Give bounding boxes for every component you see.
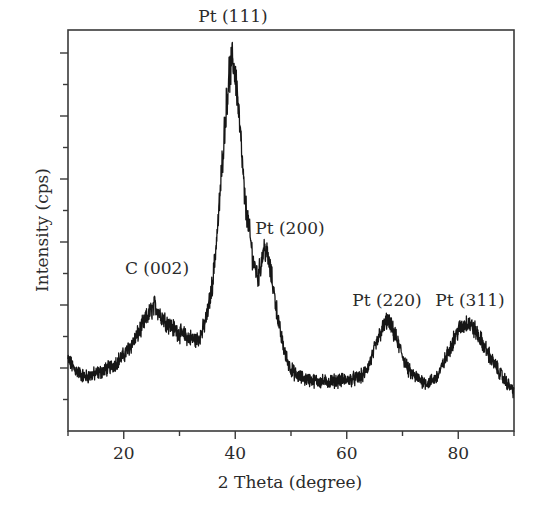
x-tick-label: 60: [336, 443, 358, 463]
x-axis-ticks: [68, 431, 514, 439]
peak-label-pt111: Pt (111): [198, 6, 267, 26]
y-axis-label: Intensity (cps): [32, 168, 52, 292]
peak-label-c002: C (002): [125, 258, 189, 278]
x-tick-label: 80: [447, 443, 469, 463]
x-axis-label: 2 Theta (degree): [218, 472, 362, 492]
xrd-chart: [0, 0, 542, 516]
y-axis-ticks: [60, 53, 68, 400]
peak-label-pt220: Pt (220): [352, 290, 421, 310]
peak-label-pt311: Pt (311): [435, 290, 504, 310]
x-tick-label: 40: [224, 443, 246, 463]
x-tick-label: 20: [113, 443, 135, 463]
peak-label-pt200: Pt (200): [255, 218, 324, 238]
